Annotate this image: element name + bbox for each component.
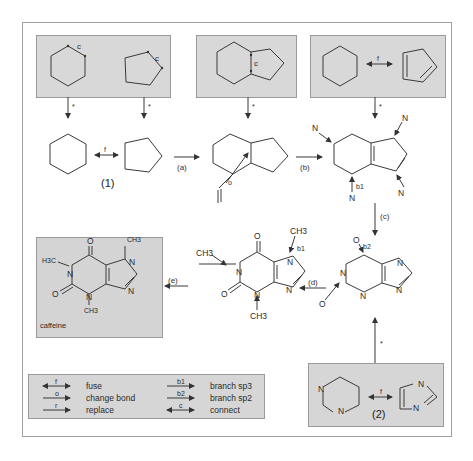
caffeine-o-top: O	[87, 237, 94, 246]
xanthine-o-top: O	[254, 232, 261, 241]
xanthine-6ring	[240, 252, 274, 292]
legend-text-replace: replace	[86, 406, 114, 415]
compound2-n3: N	[418, 380, 424, 389]
n-label-2: N	[402, 114, 408, 123]
arrow-star-1: *	[72, 103, 75, 110]
caffeine-name-label: caffeine	[40, 322, 66, 330]
purine-intermediate-6ring	[346, 255, 382, 292]
n-label-4: N	[349, 194, 355, 203]
legend-symbol-change-bond: o	[55, 390, 59, 397]
box1-connect-mark-pent: c	[155, 55, 159, 63]
intermediate-n7: N	[397, 259, 403, 268]
xanthine-ch3-left: CH3	[196, 249, 213, 258]
hydrindene-hex	[334, 134, 371, 174]
arrow-star-3: *	[252, 103, 255, 110]
step-d-label: (d)	[308, 279, 318, 287]
step-e-label: (e)	[168, 277, 178, 285]
xanthine-ch3-top: CH3	[290, 227, 307, 236]
branch-b2-mark: b2	[363, 243, 371, 250]
compound1-hexagon	[50, 134, 86, 174]
diagram-canvas	[0, 0, 473, 461]
caffeine-n3: N	[86, 293, 92, 302]
arrow-star-5: *	[380, 340, 383, 347]
step-b-label: (b)	[300, 164, 310, 172]
compound2-n2: N	[338, 407, 344, 416]
intermediate-o-top: O	[353, 236, 360, 245]
intermediate-n9: N	[396, 286, 402, 295]
intermediate-o-bottom: O	[319, 300, 326, 309]
branch-b1-mark: b1	[356, 183, 364, 190]
compound2-fuse-label: f	[380, 388, 382, 395]
compound1-fuse-label: f	[104, 146, 106, 153]
xanthine-o-bottom: O	[221, 290, 228, 299]
caffeine-ch3-bottom: CH3	[84, 307, 98, 314]
caffeine-o-bottom: O	[52, 290, 59, 299]
arrow-star-2: *	[148, 103, 151, 110]
legend-text-branch-sp3: branch sp3	[210, 382, 252, 391]
xanthine-n1: N	[236, 268, 242, 277]
xanthine-n3: N	[254, 291, 260, 300]
compound1-label: (1)	[101, 178, 114, 189]
caffeine-n1: N	[67, 270, 73, 279]
box1-connect-mark-hex: c	[77, 43, 81, 51]
caffeine-n7: N	[129, 258, 135, 267]
bicycle-vinyl-hex	[213, 134, 251, 174]
caffeine-h3c: H3C	[42, 257, 56, 264]
caffeine-n9: N	[128, 287, 134, 296]
compound1-pentagon	[125, 138, 162, 172]
legend-text-branch-sp2: branch sp2	[210, 394, 252, 403]
legend-symbol-replace: r	[55, 402, 57, 409]
n-label-1: N	[312, 124, 318, 133]
compound2-n1: N	[318, 385, 324, 394]
legend-text-change-bond: change bond	[86, 394, 135, 403]
legend-text-connect: connect	[210, 406, 240, 415]
legend-symbol-branch-sp2: b2	[177, 390, 185, 397]
change-bond-mark: o	[228, 179, 232, 186]
legend-symbol-fuse: f	[55, 378, 57, 385]
legend-text-fuse: fuse	[86, 382, 102, 391]
xanthine-n9: N	[286, 286, 292, 295]
arrow-star-4: *	[379, 103, 382, 110]
legend-symbol-connect: c	[179, 402, 183, 409]
xanthine-ch3-bottom: CH3	[250, 312, 267, 321]
box3-fuse-label: f	[377, 55, 379, 62]
step-c-label: (c)	[380, 213, 389, 221]
compound2-label: (2)	[372, 409, 385, 420]
intermediate-n3: N	[360, 292, 366, 301]
n-label-3: N	[398, 189, 404, 198]
compound2-n4: N	[413, 404, 419, 413]
xanthine-b1-mark: b1	[297, 245, 305, 252]
legend-symbol-branch-sp3: b1	[177, 378, 185, 385]
intermediate-n1: N	[340, 269, 346, 278]
caffeine-ch3-top: CH3	[127, 236, 141, 243]
box-top-1	[37, 36, 171, 98]
box-top-3	[311, 36, 446, 98]
xanthine-n7: N	[287, 258, 293, 267]
box2-connect-mark: c	[254, 60, 258, 68]
step-a-label: (a)	[177, 164, 187, 172]
